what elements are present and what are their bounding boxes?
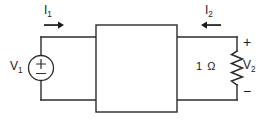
current-arrow-i1-icon: [44, 22, 64, 29]
circuit-diagram: I1 I2 V1 V2 1 Ω + −: [0, 0, 271, 120]
label-voltage-v2: V2: [243, 59, 256, 71]
two-port-network-box: [96, 25, 177, 112]
label-current-i1: I1: [44, 4, 52, 16]
label-resistor-value: 1 Ω: [196, 61, 216, 72]
voltage-source-symbol: [29, 56, 54, 81]
label-terminal-plus: +: [243, 35, 251, 49]
label-voltage-v1: V1: [10, 60, 23, 72]
current-arrow-i2-icon: [201, 22, 221, 29]
label-terminal-minus: −: [243, 84, 251, 98]
circuit-schematic-svg: [0, 0, 271, 120]
resistor-zigzag-icon: [232, 51, 243, 85]
label-current-i2: I2: [205, 4, 213, 16]
